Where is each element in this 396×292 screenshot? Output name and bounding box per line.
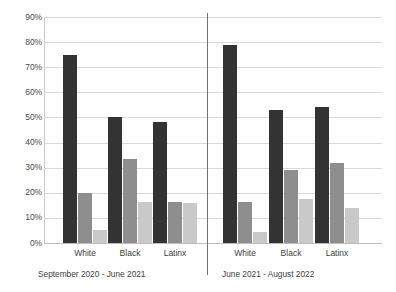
bar-group-bars (223, 17, 267, 243)
y-axis-tick-label: 50% (2, 113, 42, 122)
bar (93, 230, 107, 243)
category-label-latinx: Latinx (307, 248, 367, 258)
bar (299, 199, 313, 243)
bar-group-bars (63, 17, 107, 243)
bar (123, 159, 137, 243)
bar-group (153, 17, 197, 243)
bar (345, 208, 359, 243)
y-axis-tick-label: 0% (2, 239, 42, 248)
bar-group (315, 17, 359, 243)
bar-group-bars (153, 17, 197, 243)
y-axis-tick-labels: 90%80%70%60%50%40%30%20%10%0% (0, 0, 42, 292)
bar-chart: 90%80%70%60%50%40%30%20%10%0% September … (0, 0, 396, 292)
bar (269, 110, 283, 243)
bar (253, 232, 267, 243)
bar (108, 117, 122, 243)
y-axis-tick-label: 80% (2, 38, 42, 47)
bar (284, 170, 298, 243)
bar-group-bars (269, 17, 313, 243)
y-axis-tick-label: 70% (2, 63, 42, 72)
bar-group (63, 17, 107, 243)
y-axis-tick-label: 60% (2, 88, 42, 97)
bar-group (269, 17, 313, 243)
bar (238, 202, 252, 243)
bar (153, 122, 167, 243)
category-label-latinx: Latinx (145, 248, 205, 258)
panel-period-1 (45, 17, 207, 243)
bar (183, 203, 197, 243)
y-axis-tick-label: 90% (2, 13, 42, 22)
bar-group (223, 17, 267, 243)
bar (78, 193, 92, 243)
y-axis-tick-label: 20% (2, 188, 42, 197)
bar-group-bars (108, 17, 152, 243)
bar (330, 163, 344, 243)
y-axis-tick-label: 10% (2, 213, 42, 222)
bar (168, 202, 182, 243)
gridline (44, 243, 382, 244)
panel-caption-period-1: September 2020 - June 2021 (38, 269, 145, 279)
y-axis-tick-label: 40% (2, 138, 42, 147)
bar-group (108, 17, 152, 243)
y-axis-tick-label: 30% (2, 163, 42, 172)
bar-group-bars (315, 17, 359, 243)
bar (63, 55, 77, 243)
panel-caption-period-2: June 2021 - August 2022 (222, 269, 314, 279)
bar (223, 45, 237, 243)
bar (315, 107, 329, 243)
panel-divider (207, 13, 208, 275)
bar (138, 202, 152, 243)
panel-period-2 (209, 17, 382, 243)
